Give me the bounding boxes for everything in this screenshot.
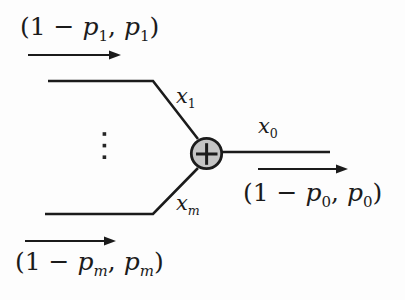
- label-sub: m: [188, 203, 200, 218]
- right-arrow-icon-top: [28, 50, 121, 59]
- xor-node-diagram: (1 − p1, p1) x1 x0 (1 − p0, p0) xm (1 − …: [0, 0, 405, 300]
- label-sub: m: [94, 262, 108, 280]
- label-var: x: [258, 114, 270, 138]
- label-sub: 0: [363, 193, 373, 211]
- label-sub: 1: [188, 96, 196, 111]
- label-sub: 0: [270, 126, 278, 141]
- label-sep: ,: [331, 178, 347, 207]
- label-sep: ,: [108, 247, 124, 276]
- prob-label-input-top: (1 − p1, p1): [20, 12, 159, 42]
- label-sub: m: [140, 262, 154, 280]
- label-var: p: [124, 12, 140, 41]
- label-var: x: [176, 84, 188, 108]
- edge-label-x1: x1: [176, 84, 196, 109]
- label-var: p: [347, 178, 363, 207]
- edge-label-xm: xm: [176, 191, 200, 216]
- label-close: ): [150, 12, 160, 41]
- prob-label-input-bottom: (1 − pm, pm): [15, 247, 164, 277]
- label-close: ): [373, 178, 383, 207]
- prob-label-output: (1 − p0, p0): [243, 178, 382, 208]
- edge-label-x0: x0: [258, 114, 278, 139]
- label-sep: ,: [108, 12, 124, 41]
- label-var: p: [83, 12, 99, 41]
- label-open: (1 −: [15, 247, 78, 276]
- label-open: (1 −: [243, 178, 306, 207]
- right-arrow-icon-output: [258, 164, 348, 173]
- label-var: p: [124, 247, 140, 276]
- label-var: x: [176, 191, 188, 215]
- vertical-ellipsis-icon: [103, 132, 107, 159]
- right-arrow-icon-bottom: [25, 236, 116, 245]
- label-open: (1 −: [20, 12, 83, 41]
- label-sub: 1: [99, 27, 109, 45]
- label-var: p: [78, 247, 94, 276]
- label-close: ): [154, 247, 164, 276]
- label-sub: 1: [140, 27, 150, 45]
- label-sub: 0: [322, 193, 332, 211]
- label-var: p: [306, 178, 322, 207]
